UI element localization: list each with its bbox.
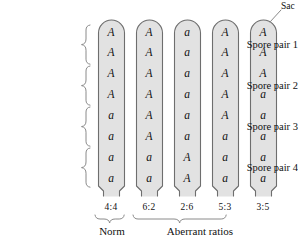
group-caption-aberrant: Aberrant ratios — [133, 226, 267, 237]
spore-5-6: a — [250, 131, 276, 143]
spore-3-2: a — [174, 47, 200, 59]
spore-4-4: A — [212, 89, 238, 101]
spore-1-7: a — [98, 152, 124, 164]
group-braces — [95, 215, 226, 223]
spore-3-5: a — [174, 110, 200, 122]
spore-4-3: A — [212, 68, 238, 80]
spore-3-8: A — [174, 173, 200, 185]
spore-4-7: a — [212, 152, 238, 164]
spore-5-4: a — [250, 89, 276, 101]
spore-2-4: A — [136, 89, 162, 101]
spore-4-8: a — [212, 173, 238, 185]
spore-5-5: a — [250, 110, 276, 122]
spore-1-2: A — [98, 47, 124, 59]
spore-5-8: a — [250, 173, 276, 185]
spore-2-3: A — [136, 68, 162, 80]
ratio-label-5: 3:5 — [243, 203, 283, 213]
spore-1-6: a — [98, 131, 124, 143]
spore-1-4: A — [98, 89, 124, 101]
spore-3-6: a — [174, 131, 200, 143]
spore-2-7: a — [136, 152, 162, 164]
ratio-label-1: 4:4 — [91, 203, 131, 213]
spore-4-1: A — [212, 27, 238, 39]
ratio-label-3: 2:6 — [167, 203, 207, 213]
spore-4-6: a — [212, 131, 238, 143]
spore-4-5: A — [212, 110, 238, 122]
spore-5-1: A — [250, 27, 276, 39]
ratio-label-4: 5:3 — [205, 203, 245, 213]
spore-pair-braces — [82, 25, 91, 187]
spore-2-8: a — [136, 173, 162, 185]
spore-2-6: A — [136, 131, 162, 143]
spore-5-7: a — [250, 152, 276, 164]
spore-1-8: a — [98, 173, 124, 185]
group-caption-norm: Norm — [86, 226, 138, 237]
spore-2-1: A — [136, 27, 162, 39]
sac-callout-label: Sac — [281, 2, 295, 12]
spore-1-5: a — [98, 110, 124, 122]
spore-5-3: A — [250, 68, 276, 80]
brace-group-norm — [95, 215, 124, 223]
spore-3-7: A — [174, 152, 200, 164]
spore-5-2: A — [250, 47, 276, 59]
brace-pair-4 — [82, 148, 91, 187]
spore-sac-diagram: Spore pair 1 Spore pair 2 Spore pair 3 S… — [0, 0, 298, 244]
ratio-label-2: 6:2 — [129, 203, 169, 213]
spore-1-1: A — [98, 27, 124, 39]
sac-leader-line — [270, 10, 281, 22]
brace-group-aberrant — [133, 215, 226, 223]
brace-pair-2 — [82, 66, 91, 105]
brace-pair-3 — [82, 107, 91, 146]
spore-1-3: A — [98, 68, 124, 80]
spore-3-4: a — [174, 89, 200, 101]
spore-3-1: a — [174, 27, 200, 39]
spore-2-2: A — [136, 47, 162, 59]
spore-2-5: A — [136, 110, 162, 122]
spore-4-2: A — [212, 47, 238, 59]
spore-3-3: a — [174, 68, 200, 80]
brace-pair-1 — [82, 25, 91, 64]
